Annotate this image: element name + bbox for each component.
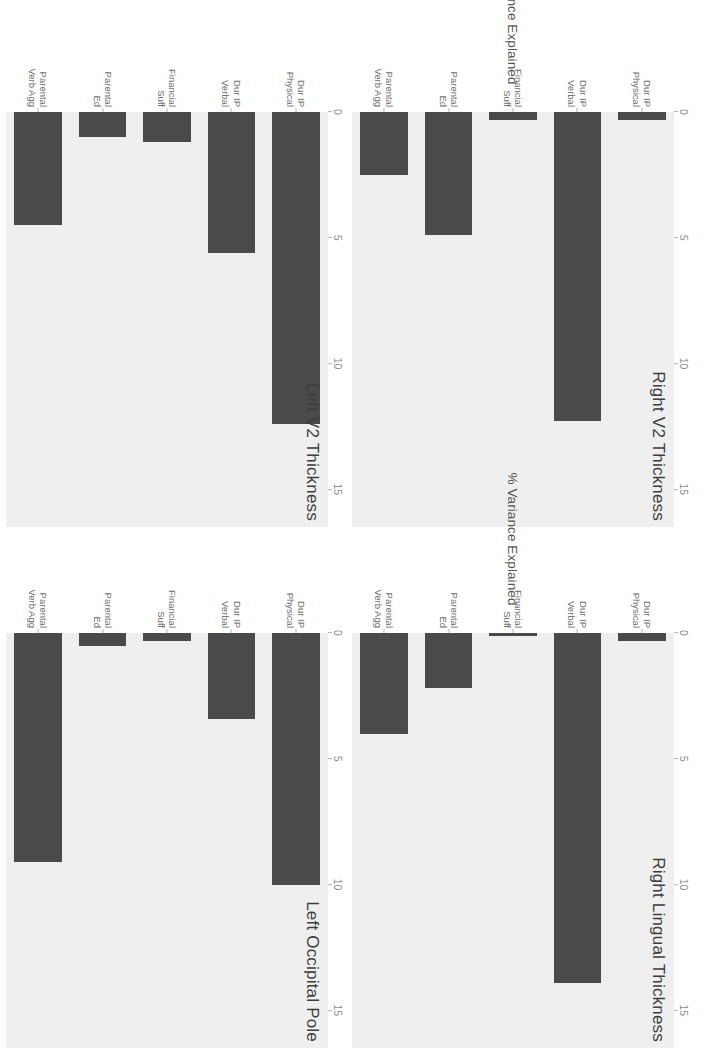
x-tick: 5 [674,756,690,762]
panel-title: Left V2 Thickness [302,383,322,521]
category-label-text: ParentalVerb Agg [27,589,49,628]
x-tick-mark [328,489,332,490]
x-axis-ticks: 051015 [674,633,696,1048]
category-label-text: ParentalEd [437,72,459,107]
category-label-text: ParentalEd [91,593,113,628]
category-label-0: Dur IPPhysical [264,26,328,112]
x-tick: 0 [674,109,690,115]
plot-area [6,633,328,1048]
category-label-3: ParentalEd [416,547,480,633]
bar-dur-ip-physical [618,633,666,641]
plot-area [352,112,674,527]
bar-slot [70,633,134,1048]
bar-parental-ed [79,112,127,137]
x-axis-label: % Variance Explained [352,531,674,547]
bar-slot [6,633,70,1048]
bar-slot [352,633,416,1048]
x-tick-label: 0 [679,630,690,636]
x-tick-label: 15 [679,1004,690,1016]
figure-panel-grid: % Variance Explained 051015 Dur IPPhysic… [0,0,712,1062]
x-tick-label: 10 [333,879,344,891]
category-label-3: ParentalEd [416,26,480,112]
category-label-text: ParentalVerb Agg [373,68,395,107]
plot-area [6,112,328,527]
panel-title: Right Lingual Thickness [648,857,668,1042]
bar-financial-suff [489,112,537,120]
figure-rotation-wrapper: % Variance Explained 051015 Dur IPPhysic… [0,0,712,1062]
bar-slot [6,112,70,527]
x-tick-mark [328,758,332,759]
category-label-text: Dur IPPhysical [285,593,307,628]
bar-slot [545,112,609,527]
category-label-text: ParentalEd [437,593,459,628]
x-tick-mark [328,112,332,113]
bar-dur-ip-verbal [208,112,256,253]
category-label-4: ParentalVerb Agg [6,26,70,112]
x-tick: 0 [674,630,690,636]
bar-financial-suff [143,112,191,142]
panel-title: Right V2 Thickness [648,371,668,521]
category-label-0: Dur IPPhysical [610,26,674,112]
category-label-2: FinancialSuff [135,26,199,112]
x-tick-label: 15 [333,1004,344,1016]
x-tick-label: 5 [679,756,690,762]
x-tick: 5 [674,235,690,241]
x-tick-label: 10 [679,358,690,370]
category-label-1: Dur IPVerbal [199,547,263,633]
x-tick-mark [674,633,678,634]
category-label-text: FinancialSuff [156,69,178,107]
category-label-text: FinancialSuff [156,590,178,628]
bar-slot [135,633,199,1048]
x-tick-label: 0 [333,630,344,636]
x-tick-mark [328,237,332,238]
bar-financial-suff [143,633,191,641]
panel-left-occipital-pole: 051015 Dur IPPhysicalDur IPVerbalFinanci… [6,531,350,1048]
category-label-text: FinancialSuff [502,69,524,107]
x-tick-label: 15 [333,483,344,495]
x-axis-ticks: 051015 [328,633,350,1048]
x-tick-mark [328,1010,332,1011]
category-label-0: Dur IPPhysical [264,547,328,633]
bar-slot [199,633,263,1048]
bar-dur-ip-verbal [554,633,602,983]
category-label-3: ParentalEd [70,547,134,633]
category-label-4: ParentalVerb Agg [352,26,416,112]
x-axis-label: % Variance Explained [352,10,674,26]
bar-parental-verb-agg [14,112,62,225]
bar-slot [135,112,199,527]
x-tick: 10 [674,358,690,370]
x-tick-label: 0 [333,109,344,115]
bar-slot [416,633,480,1048]
x-tick-mark [674,489,678,490]
x-tick: 0 [328,630,344,636]
category-label-text: Dur IPPhysical [285,72,307,107]
bar-parental-verb-agg [360,112,408,175]
x-tick: 15 [328,1004,344,1016]
x-tick-mark [674,112,678,113]
category-label-1: Dur IPVerbal [545,26,609,112]
bar-financial-suff [489,633,537,636]
panel-left-v2-thickness: 051015 Dur IPPhysicalDur IPVerbalFinanci… [6,10,350,527]
x-tick-label: 0 [679,109,690,115]
bar-parental-ed [425,112,473,235]
bar-series [6,633,328,1048]
x-axis-label [6,10,328,26]
category-label-3: ParentalEd [70,26,134,112]
x-tick-mark [328,884,332,885]
x-tick-label: 5 [679,235,690,241]
category-label-0: Dur IPPhysical [610,547,674,633]
y-axis-category-labels: Dur IPPhysicalDur IPVerbalFinancialSuffP… [352,26,674,112]
category-label-1: Dur IPVerbal [199,26,263,112]
x-tick: 5 [328,235,344,241]
bar-series [352,633,674,1048]
x-tick: 10 [328,358,344,370]
bar-dur-ip-physical [272,112,320,424]
category-label-text: ParentalVerb Agg [27,68,49,107]
x-tick-mark [674,1010,678,1011]
category-label-text: Dur IPVerbal [566,80,588,107]
x-tick-mark [674,758,678,759]
category-label-4: ParentalVerb Agg [6,547,70,633]
bar-series [352,112,674,527]
category-label-text: FinancialSuff [502,590,524,628]
x-tick-mark [674,884,678,885]
